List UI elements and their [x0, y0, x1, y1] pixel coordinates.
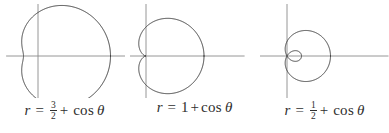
caption-equals: = [168, 99, 176, 115]
caption-equals: = [295, 102, 303, 118]
limacon-curve [22, 5, 111, 98]
caption-1: r=32+cosθ [0, 100, 129, 122]
caption-function: cos [201, 99, 222, 115]
plot-svg-1 [0, 4, 129, 98]
polar-plot-3 [260, 4, 389, 98]
caption-variable: r [285, 102, 291, 118]
caption-function: cos [333, 102, 354, 118]
caption-fraction: 32 [50, 100, 57, 122]
fraction-numerator: 1 [310, 100, 317, 110]
caption-plus: + [191, 99, 199, 115]
curve-panel-1: r=32+cosθ [0, 0, 129, 133]
caption-plus: + [320, 102, 328, 118]
curve-panel-2: r=1+cosθ [130, 0, 259, 133]
polar-plot-1 [0, 4, 129, 98]
caption-variable: r [25, 102, 31, 118]
caption-2: r=1+cosθ [130, 100, 259, 115]
fraction-denominator: 2 [310, 110, 317, 121]
caption-3: r=12+cosθ [260, 100, 389, 122]
caption-angle: θ [225, 99, 232, 115]
polar-curves-figure: r=32+cosθ r=1+cosθ r=12+cosθ [0, 0, 389, 133]
fraction-denominator: 2 [50, 110, 57, 121]
caption-whole-number: 1 [181, 99, 189, 115]
caption-plus: + [60, 102, 68, 118]
plot-svg-3 [260, 4, 389, 98]
caption-variable: r [157, 99, 163, 115]
caption-function: cos [73, 102, 94, 118]
caption-angle: θ [97, 102, 104, 118]
plot-svg-2 [130, 4, 259, 98]
caption-angle: θ [357, 102, 364, 118]
caption-fraction: 12 [310, 100, 317, 122]
fraction-numerator: 3 [50, 100, 57, 110]
polar-plot-2 [130, 4, 259, 98]
curve-panel-3: r=12+cosθ [260, 0, 389, 133]
caption-equals: = [35, 102, 43, 118]
